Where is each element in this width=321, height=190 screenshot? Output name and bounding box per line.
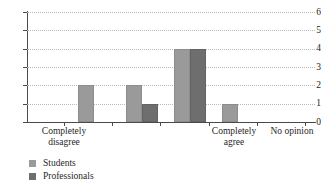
x-axis-labels: Completely disagree Completely agree No … [0, 126, 321, 152]
legend-item-students: Students [29, 157, 94, 170]
bar-professionals [190, 49, 206, 122]
legend-label-students: Students [43, 158, 76, 169]
x-label-line1: No opinion [270, 126, 313, 136]
bar-professionals [142, 104, 158, 122]
x-axis-line [27, 122, 316, 123]
legend-swatch-icon [29, 173, 36, 180]
x-label-line2: disagree [48, 137, 80, 147]
bar-students [78, 85, 94, 122]
x-label-completely-disagree: Completely disagree [18, 126, 110, 147]
x-label-line2: agree [224, 137, 245, 147]
legend-swatch-icon [29, 160, 36, 167]
bar-students [126, 85, 142, 122]
x-label-line1: Completely [42, 126, 86, 136]
y-tick-mark [23, 122, 27, 123]
bar-students [222, 104, 238, 122]
legend-item-professionals: Professionals [29, 170, 94, 183]
bars [27, 12, 315, 122]
x-label-line1: Completely [212, 126, 256, 136]
x-label-completely-agree: Completely agree [203, 126, 265, 147]
bar-students [174, 49, 190, 122]
bar-chart: 6 5 4 3 2 1 0 [0, 0, 321, 190]
x-label-no-opinion: No opinion [263, 126, 321, 137]
legend-label-professionals: Professionals [43, 171, 94, 182]
chart-legend: Students Professionals [29, 157, 94, 183]
plot-area [27, 12, 315, 122]
